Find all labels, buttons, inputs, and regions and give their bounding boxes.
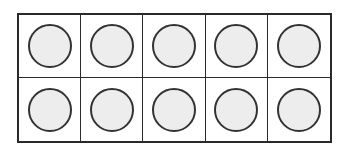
counter-circle <box>277 24 321 68</box>
counter-circle <box>90 24 134 68</box>
frame-cell-r2c3 <box>143 78 205 141</box>
frame-cell-r1c3 <box>143 15 205 78</box>
frame-cell-r2c5 <box>268 78 330 141</box>
frame-cell-r2c1 <box>19 78 81 141</box>
counter-circle <box>152 88 196 132</box>
counter-circle <box>214 24 258 68</box>
frame-cell-r2c4 <box>206 78 268 141</box>
frame-cell-r1c1 <box>19 15 81 78</box>
counter-circle <box>90 88 134 132</box>
frame-cell-r2c2 <box>81 78 143 141</box>
counter-circle <box>28 88 72 132</box>
ten-frame <box>17 13 332 143</box>
counter-circle <box>214 88 258 132</box>
counter-circle <box>152 24 196 68</box>
frame-cell-r1c2 <box>81 15 143 78</box>
counter-circle <box>28 24 72 68</box>
counter-circle <box>277 88 321 132</box>
frame-cell-r1c4 <box>206 15 268 78</box>
frame-cell-r1c5 <box>268 15 330 78</box>
